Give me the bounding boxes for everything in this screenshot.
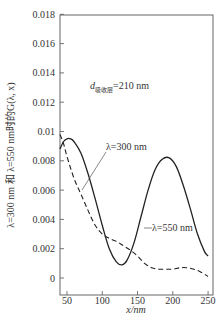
x-tick-label: 200 [165, 295, 180, 306]
label-300nm: λ=300 nm [106, 141, 147, 152]
line-550nm [60, 138, 208, 264]
y-tick-label: 0.008 [33, 155, 56, 166]
series-lines [60, 134, 208, 276]
x-tick-label: 250 [201, 295, 216, 306]
y-axis-title: λ=300 nm 和 λ=550 nm时的G(λ, x) [4, 82, 17, 227]
leader-line-300 [82, 152, 106, 190]
y-tick-label: 0.018 [33, 9, 56, 20]
y-tick-label: 0.012 [33, 97, 56, 108]
x-axis-title: x/nm [125, 304, 145, 315]
y-tick-label: 0.002 [33, 243, 56, 254]
y-tick-label: 0.014 [33, 67, 56, 78]
generation-rate-chart: 00.0020.0040.0060.0080.010.0120.0140.016… [0, 0, 224, 316]
y-tick-label: 0.016 [33, 38, 56, 49]
y-axis-ticks: 00.0020.0040.0060.0080.010.0120.0140.016… [33, 9, 65, 284]
plot-frame [60, 15, 213, 295]
y-tick-label: 0 [50, 273, 55, 284]
thickness-annotation: d吸收层=210 nm [90, 80, 149, 94]
label-550nm: λ=550 nm [152, 222, 193, 233]
y-tick-label: 0.01 [38, 126, 56, 137]
x-tick-label: 50 [62, 295, 72, 306]
y-tick-label: 0.004 [33, 214, 56, 225]
y-tick-label: 0.006 [33, 185, 56, 196]
x-tick-label: 100 [95, 295, 110, 306]
